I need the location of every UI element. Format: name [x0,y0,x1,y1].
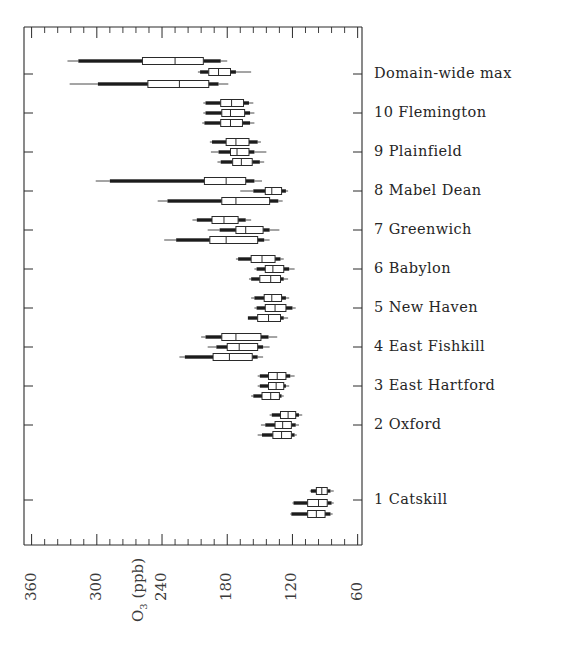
row-label-6: 5 New Haven [374,300,478,315]
x-tick-label-group: 240 [152,572,170,601]
boxplot [254,305,295,312]
boxplot [211,149,266,156]
row-label-10: 1 Catskill [374,492,448,507]
quartile-box [275,422,291,429]
boxplot [251,295,289,302]
thick-bar-high [249,150,254,153]
x-tick-labels: 36030024018012060 [22,572,366,601]
boxplot [210,139,261,146]
thick-bar-low [248,316,258,319]
quartile-box [233,159,253,166]
quartile-box [221,120,243,127]
boxplot [258,383,290,390]
thick-bar-high [275,257,280,260]
thick-bar-high [263,228,270,231]
thick-bar-low [257,306,266,309]
boxplot [203,110,254,117]
thick-bar-high [282,189,286,192]
boxplot [240,188,288,195]
thick-bar-high [286,374,290,377]
boxplot [251,393,284,400]
thick-bar-low [200,70,209,73]
thick-bar-low [260,374,269,377]
quartile-box [236,227,263,234]
thick-bar-low [311,489,316,492]
thick-bar-high [230,70,235,73]
quartile-box [209,69,231,76]
quartile-box [251,256,275,263]
x-tick-label: 60 [348,582,366,601]
thick-bar-high [325,512,330,515]
thick-bar-low [253,394,262,397]
quartile-box [273,432,291,439]
x-tick-label: 240 [152,572,170,601]
row-label-9: 2 Oxford [374,417,441,432]
thick-bar-low [253,189,265,192]
boxplot [202,120,254,127]
quartile-box [260,276,281,283]
quartile-box [142,58,203,65]
thick-bar-high [282,296,286,299]
thick-bar-low [212,140,226,143]
row-label-4: 7 Greenwich [374,222,472,237]
quartile-box [222,334,261,341]
thick-bar-low [205,335,221,338]
thick-bar-high [203,59,220,62]
thick-bar-low [205,101,220,104]
quartile-box [230,149,248,156]
thick-bar-low [260,384,269,387]
quartile-box [264,295,281,302]
thick-bar-high [244,101,249,104]
boxplot [249,276,288,283]
thick-bar-low [251,277,260,280]
boxplot [270,412,303,419]
thick-bar-low [294,501,308,504]
row-label-2: 9 Plainfield [374,144,462,159]
thick-bar-high [249,140,258,143]
thick-bar-high [258,238,265,241]
thick-bar-low [238,257,251,260]
quartile-box [265,305,286,312]
quartile-box [258,315,281,322]
thick-bar-low [291,512,307,515]
boxplot [248,315,288,322]
boxplot [70,81,229,88]
thick-bar-high [252,355,257,358]
boxplot [198,69,251,76]
boxplot [236,256,284,263]
thick-bar-low [221,160,233,163]
thick-bar-high [252,160,260,163]
thick-bar-low [262,433,273,436]
thick-bar-low [110,179,205,182]
thick-bar-high [245,111,250,114]
boxplot [290,511,332,518]
quartile-box [213,354,252,361]
thick-bar-high [261,335,269,338]
quartile-box [221,100,244,107]
quartile-box [265,266,283,273]
ozone-percentile-chart: 36030024018012060 O3 (ppb) [0,0,581,654]
thick-bar-high [246,179,255,182]
axis-frame [24,27,362,545]
row-label-7: 4 East Fishkill [374,339,485,354]
x-tick-label: 180 [217,572,235,601]
boxplot [192,217,251,224]
quartile-box [212,217,238,224]
quartile-box [204,178,245,185]
thick-bar-high [286,306,293,309]
quartile-box [222,198,270,205]
thick-bar-low [220,228,236,231]
thick-bar-low [216,345,227,348]
boxplot [96,178,262,185]
thick-bar-high [327,501,331,504]
thick-bar-low [257,267,266,270]
axis-ticks [32,27,358,545]
figure-canvas: 36030024018012060 O3 (ppb) Domain-wide m… [0,0,581,654]
thick-bar-low [167,199,221,202]
boxplot [217,159,264,166]
thick-bar-low [254,296,264,299]
row-label-5: 6 Babylon [374,261,451,276]
row-label-0: Domain-wide max [374,66,512,81]
boxplot [292,500,333,507]
boxplot [203,100,253,107]
